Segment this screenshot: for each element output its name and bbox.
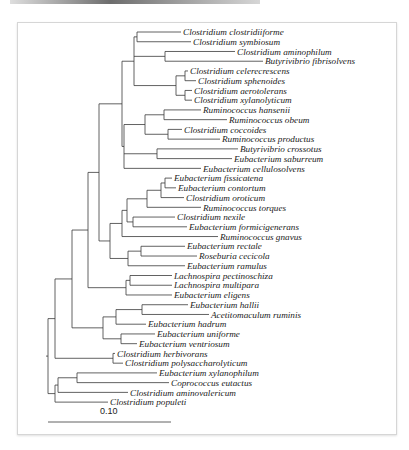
- phylogenetic-tree: Clostridium clostridiiformeClostridium s…: [0, 0, 409, 450]
- leaf-label: Ruminococcus torques: [202, 203, 287, 213]
- leaf-label: Lachnospira multipara: [173, 280, 259, 290]
- leaf-label: Clostridium symbiosum: [193, 37, 280, 47]
- scale-bar-label: 0.10: [100, 406, 118, 416]
- leaf-label: Clostridium aminovalericum: [130, 388, 236, 398]
- leaf-label: Acetitomaculum ruminis: [210, 310, 302, 320]
- leaf-label: Ruminococcus productus: [221, 134, 315, 144]
- leaf-label: Eubacterium eligens: [173, 290, 250, 300]
- leaf-label: Eubacterium formicigenerans: [188, 222, 299, 232]
- leaf-label: Clostridium polysaccharolyticum: [125, 358, 248, 368]
- leaf-label: Ruminococcus gnavus: [219, 232, 302, 242]
- leaf-label: Eubacterium fissicatena: [173, 173, 263, 183]
- leaf-label: Eubacterium ventriosum: [138, 339, 230, 349]
- leaf-label: Eubacterium xylanophilum: [158, 368, 259, 378]
- leaf-label: Clostridium celerecrescens: [190, 66, 290, 76]
- leaf-label: Eubacterium hadrum: [147, 319, 227, 329]
- leaf-label: Eubacterium cellulosolvens: [202, 164, 305, 174]
- leaf-label: Clostridium coccoides: [184, 125, 267, 135]
- leaf-label: Eubacterium contortum: [177, 183, 266, 193]
- leaf-label: Coprococcus eutactus: [171, 378, 252, 388]
- leaf-label: Eubacterium uniforme: [156, 329, 240, 339]
- leaf-label: Eubacterium ramulus: [186, 261, 267, 271]
- leaf-label: Clostridium clostridiiforme: [183, 27, 284, 37]
- leaf-label: Clostridium nexile: [177, 212, 245, 222]
- leaf-label: Ruminococcus hansenii: [202, 105, 290, 115]
- leaf-label: Eubacterium saburreum: [233, 154, 324, 164]
- leaf-label: Clostridium aerotolerans: [194, 86, 287, 96]
- leaf-label: Butyrivibrio crossotus: [240, 144, 322, 154]
- scale-bar: 0.10: [48, 406, 171, 422]
- leaf-label: Butyrivibrio fibrisolvens: [265, 56, 356, 66]
- leaf-label: Clostridium aminophilum: [237, 47, 332, 57]
- leaf-label: Lachnospira pectinoschiza: [173, 271, 273, 281]
- leaf-label: Eubacterium hallii: [189, 300, 260, 310]
- leaf-label: Clostridium xylanolyticum: [194, 95, 292, 105]
- leaf-label: Clostridium herbivorans: [117, 349, 208, 359]
- leaf-label: Clostridium populeti: [110, 397, 187, 407]
- leaf-label: Eubacterium rectale: [186, 241, 262, 251]
- leaf-label: Ruminococcus obeum: [228, 115, 310, 125]
- leaf-label: Clostridium oroticum: [186, 193, 265, 203]
- leaf-label: Clostridium sphenoides: [198, 76, 285, 86]
- leaf-label: Roseburia cecicola: [198, 251, 270, 261]
